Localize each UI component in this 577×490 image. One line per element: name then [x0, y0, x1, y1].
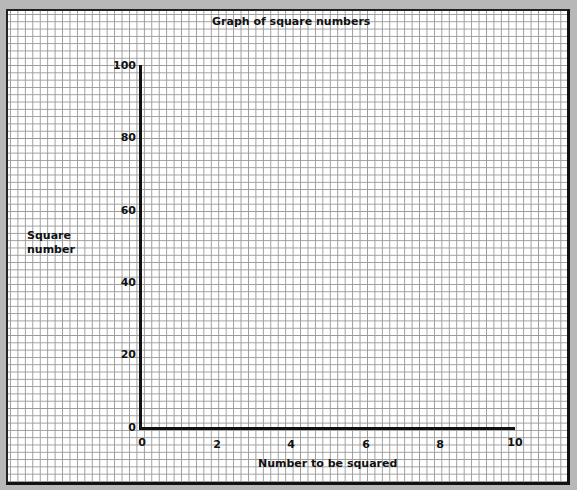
y-tick-80: 80	[106, 131, 136, 144]
y-tick-0: 0	[106, 421, 136, 434]
y-tick-100: 100	[106, 59, 136, 72]
x-tick-2: 2	[205, 438, 229, 451]
x-tick-6: 6	[354, 438, 378, 451]
graph-paper	[6, 9, 570, 485]
chart-title: Graph of square numbers	[212, 15, 370, 28]
y-axis-label-line1: Square	[27, 229, 75, 243]
x-tick-8: 8	[428, 438, 452, 451]
y-tick-20: 20	[106, 348, 136, 361]
x-tick-0: 0	[130, 436, 154, 449]
y-axis-line	[139, 65, 142, 430]
x-tick-10: 10	[503, 436, 527, 449]
y-tick-60: 60	[106, 204, 136, 217]
x-axis-line	[139, 427, 515, 430]
x-axis-label: Number to be squared	[258, 457, 397, 470]
y-tick-40: 40	[106, 276, 136, 289]
y-axis-label-line2: number	[27, 243, 75, 257]
x-tick-4: 4	[279, 438, 303, 451]
y-axis-label: Square number	[27, 229, 75, 257]
